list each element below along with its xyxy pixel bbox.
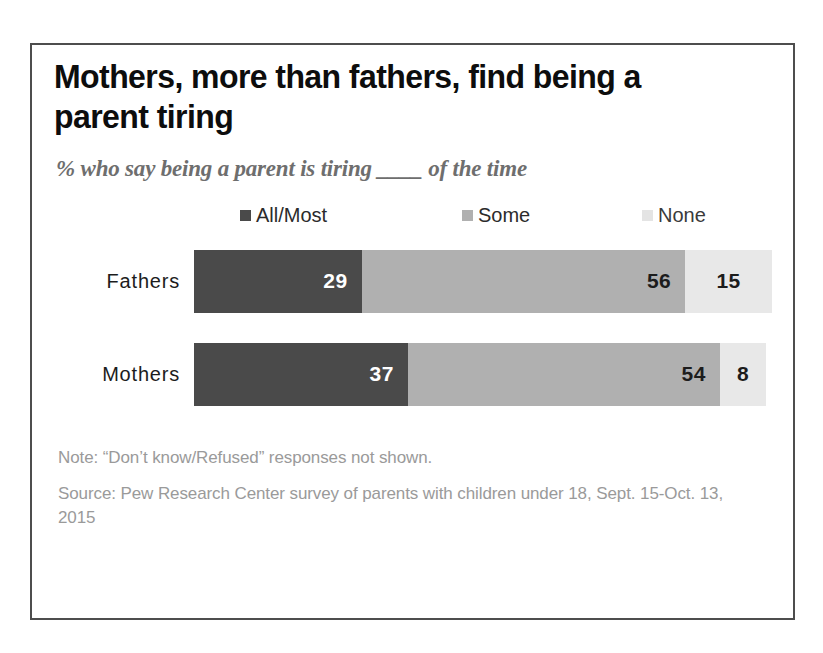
chart-subtitle: % who say being a parent is tiring ____ … (56, 156, 775, 182)
square-marker-icon (462, 210, 473, 221)
legend-item-some[interactable]: Some (462, 204, 530, 227)
chart-note: Note: “Don’t know/Refused” responses not… (58, 448, 775, 468)
bar-segment-none[interactable]: 15 (685, 250, 772, 313)
category-label-fathers: Fathers (54, 270, 194, 293)
legend-label: Some (478, 204, 530, 227)
chart-figure: Mothers, more than fathers, find being a… (30, 43, 795, 620)
chart-title: Mothers, more than fathers, find being a… (54, 57, 753, 138)
bar-segment-none[interactable]: 8 (720, 343, 766, 406)
legend-label: All/Most (256, 204, 327, 227)
figure-inner: Mothers, more than fathers, find being a… (32, 45, 793, 618)
chart-plot-area: Fathers 29 56 15 Mothers 37 54 8 (54, 244, 775, 430)
bar-row-fathers: Fathers 29 56 15 (54, 250, 775, 313)
stacked-bar-fathers: 29 56 15 (194, 250, 772, 313)
square-marker-icon (642, 210, 653, 221)
stacked-bar-mothers: 37 54 8 (194, 343, 772, 406)
chart-source: Source: Pew Research Center survey of pa… (58, 482, 758, 531)
bar-segment-all-most[interactable]: 37 (194, 343, 408, 406)
bar-segment-all-most[interactable]: 29 (194, 250, 362, 313)
bar-row-mothers: Mothers 37 54 8 (54, 343, 775, 406)
category-label-mothers: Mothers (54, 363, 194, 386)
square-marker-icon (240, 210, 251, 221)
bar-segment-some[interactable]: 56 (362, 250, 686, 313)
chart-legend: All/Most Some None (54, 204, 775, 238)
legend-label: None (658, 204, 706, 227)
chart-footnotes: Note: “Don’t know/Refused” responses not… (54, 448, 775, 531)
legend-item-none[interactable]: None (642, 204, 706, 227)
legend-item-all-most[interactable]: All/Most (240, 204, 327, 227)
bar-segment-some[interactable]: 54 (408, 343, 720, 406)
